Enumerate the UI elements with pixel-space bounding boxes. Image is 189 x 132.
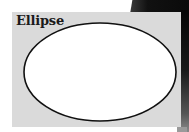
ellipse-shape xyxy=(12,12,181,127)
diagram-stage: Ellipse xyxy=(0,0,189,132)
card-shadow-corner xyxy=(177,127,187,132)
shape-card: Ellipse xyxy=(12,12,181,127)
shape-label: Ellipse xyxy=(16,13,64,29)
card-shadow-right xyxy=(181,10,189,132)
